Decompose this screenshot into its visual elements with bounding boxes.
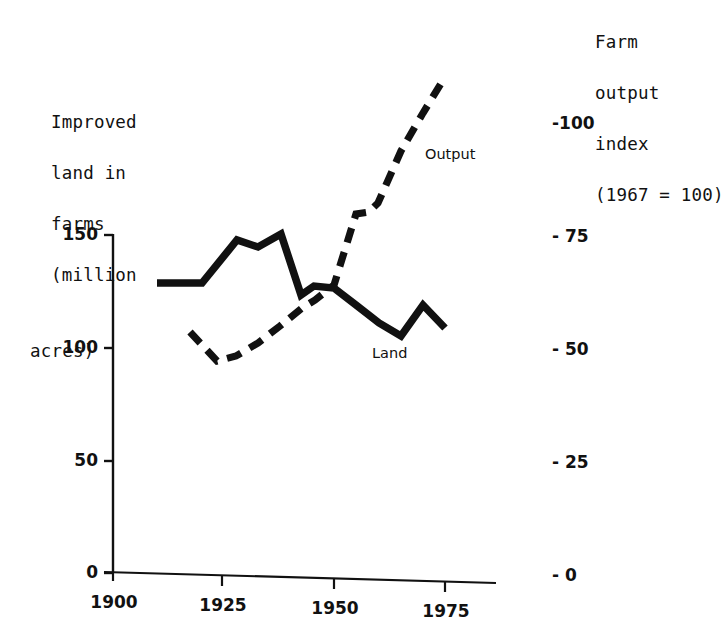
x-axis-tick-label-1900: 1900 — [73, 592, 155, 612]
series-annotation-land: Land — [372, 345, 407, 361]
y2-axis-tick-label-100: -100 — [552, 113, 595, 133]
y-axis-tick-label-0: 0 — [42, 562, 98, 582]
series-annotation-output: Output — [425, 146, 475, 162]
y2-axis-tick-label-25: - 25 — [552, 452, 589, 472]
series-output-line — [190, 77, 445, 361]
plot-area — [0, 0, 727, 634]
y-axis-tick-label-100: 100 — [42, 337, 98, 357]
y-axis-tick-label-50: 50 — [42, 450, 98, 470]
y2-axis-tick-label-75: - 75 — [552, 226, 589, 246]
x-axis-spine — [104, 572, 496, 583]
x-axis-tick-label-1925: 1925 — [182, 595, 264, 615]
y2-axis-tick-label-0: - 0 — [552, 565, 577, 585]
chart-figure: Improved land in farms (million acres) F… — [0, 0, 727, 634]
y-axis-tick-label-150: 150 — [42, 224, 98, 244]
series-land-line — [157, 234, 445, 336]
x-axis-tick-label-1950: 1950 — [294, 598, 376, 618]
x-axis-tick-label-1975: 1975 — [405, 601, 487, 621]
y2-axis-tick-label-50: - 50 — [552, 339, 589, 359]
